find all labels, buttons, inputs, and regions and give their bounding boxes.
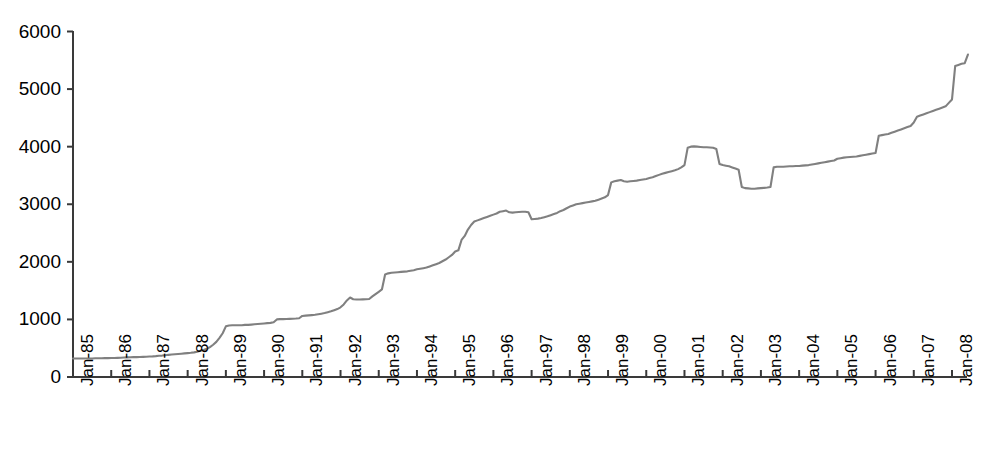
x-axis-tick-label: Jan-98 [576,334,593,386]
x-axis-tick-label: Jan-99 [614,334,631,386]
x-axis-tick-label: Jan-00 [652,334,669,386]
x-axis-tick-label: Jan-94 [423,334,440,386]
x-axis-tick-label: Jan-96 [499,334,516,386]
x-axis-tick-label: Jan-95 [461,334,478,386]
y-axis-tick-label: 2000 [19,252,61,271]
x-axis-tick-label: Jan-89 [232,334,249,386]
y-axis-tick-label: 1000 [19,309,61,328]
y-axis-tick-label: 0 [50,367,61,386]
data-series-group [73,55,968,359]
y-axis-tick-label: 3000 [19,194,61,213]
x-axis-tick-label: Jan-92 [347,334,364,386]
chart-plot-area [0,0,986,476]
x-axis-tick-label: Jan-86 [117,334,134,386]
x-axis-tick-label: Jan-02 [729,334,746,386]
y-axis-tick-label: 6000 [19,22,61,41]
x-axis-tick-label: Jan-85 [79,334,96,386]
line-chart: 0100020003000400050006000 Jan-85Jan-86Ja… [0,0,986,476]
series-line [73,55,968,359]
x-axis-tick-label: Jan-03 [767,334,784,386]
x-axis-tick-label: Jan-01 [690,334,707,386]
y-axis-tick-label: 4000 [19,137,61,156]
x-axis-tick-label: Jan-87 [155,334,172,386]
x-axis-tick-label: Jan-04 [805,334,822,386]
x-axis-tick-label: Jan-07 [920,334,937,386]
x-axis-tick-label: Jan-88 [194,334,211,386]
x-axis-tick-label: Jan-97 [538,334,555,386]
x-axis-tick-label: Jan-93 [385,334,402,386]
x-axis-tick-label: Jan-05 [843,334,860,386]
x-axis-tick-label: Jan-91 [308,334,325,386]
x-axis-tick-label: Jan-90 [270,334,287,386]
chart-axes [73,31,967,377]
y-axis-tick-label: 5000 [19,79,61,98]
x-axis-tick-label: Jan-06 [882,334,899,386]
x-axis-tick-label: Jan-08 [958,334,975,386]
